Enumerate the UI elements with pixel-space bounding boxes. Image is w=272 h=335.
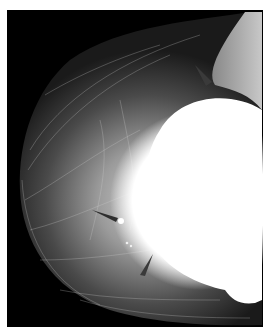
calcification-small — [126, 242, 129, 245]
calcification-large — [118, 218, 124, 224]
calcification-small — [130, 245, 132, 247]
mammogram-image — [7, 10, 263, 327]
